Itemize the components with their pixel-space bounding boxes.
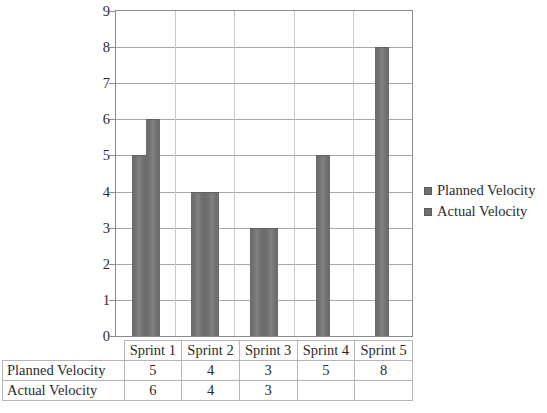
gridline [116, 155, 412, 156]
bar-actual [264, 228, 278, 336]
table-row: Planned Velocity54358 [3, 361, 413, 381]
bar-actual [146, 119, 160, 336]
table-cell: 8 [355, 361, 413, 381]
bar-planned [375, 47, 389, 336]
y-tick-mark [109, 264, 115, 265]
data-table: Sprint 1Sprint 2Sprint 3Sprint 4Sprint 5… [2, 340, 413, 401]
table-column-header: Sprint 2 [182, 341, 240, 361]
legend-item[interactable]: Planned Velocity [424, 181, 544, 200]
bar-planned [191, 192, 205, 336]
table-cell [297, 381, 355, 401]
table-row: Actual Velocity643 [3, 381, 413, 401]
table-cell: 3 [239, 361, 297, 381]
category-separator [175, 11, 176, 336]
plot-area [115, 10, 413, 337]
gridline [116, 119, 412, 120]
y-axis: 0123456789 [88, 10, 110, 337]
square-marker-icon [424, 208, 432, 216]
gridline [116, 47, 412, 48]
table-cell: 3 [239, 381, 297, 401]
y-tick-mark [109, 11, 115, 12]
table-header-row: Sprint 1Sprint 2Sprint 3Sprint 4Sprint 5 [3, 341, 413, 361]
bar-actual [205, 192, 219, 336]
table-row-label: Planned Velocity [3, 361, 125, 381]
y-tick-mark [109, 119, 115, 120]
square-marker-icon [424, 187, 432, 195]
table-cell [355, 381, 413, 401]
table-column-header: Sprint 4 [297, 341, 355, 361]
table-column-header: Sprint 3 [239, 341, 297, 361]
y-tick-mark [109, 47, 115, 48]
gridline [116, 192, 412, 193]
bar-planned [316, 155, 330, 336]
bar-planned [132, 155, 146, 336]
table-column-header: Sprint 5 [355, 341, 413, 361]
table-cell: 5 [124, 361, 182, 381]
category-separator [353, 11, 354, 336]
table-cell: 4 [182, 381, 240, 401]
bar-planned [250, 228, 264, 336]
category-separator [234, 11, 235, 336]
gridline [116, 83, 412, 84]
table-cell: 4 [182, 361, 240, 381]
legend-label: Actual Velocity [437, 204, 527, 219]
y-tick-mark [109, 336, 115, 337]
legend-item[interactable]: Actual Velocity [424, 202, 544, 221]
chart-legend: Planned VelocityActual Velocity [424, 181, 544, 223]
y-tick-mark [109, 83, 115, 84]
y-tick-mark [109, 192, 115, 193]
table-column-header: Sprint 1 [124, 341, 182, 361]
y-tick-mark [109, 155, 115, 156]
category-separator [294, 11, 295, 336]
table-cell: 5 [297, 361, 355, 381]
y-tick-mark [109, 228, 115, 229]
table-corner-cell [3, 341, 125, 361]
table-row-label: Actual Velocity [3, 381, 125, 401]
y-tick-mark [109, 300, 115, 301]
data-table-body: Sprint 1Sprint 2Sprint 3Sprint 4Sprint 5… [3, 341, 413, 401]
table-cell: 6 [124, 381, 182, 401]
chart-figure: 0123456789 Planned VelocityActual Veloci… [0, 0, 547, 413]
legend-label: Planned Velocity [437, 183, 535, 198]
